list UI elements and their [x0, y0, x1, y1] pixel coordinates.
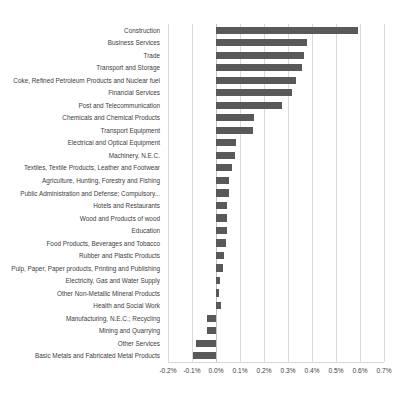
category-label: Other Non-Metallic Mineral Products	[57, 290, 160, 297]
tick-label-0.0%: 0.0%	[208, 366, 223, 375]
bar	[216, 64, 302, 71]
bar	[216, 177, 229, 184]
tick-label-0.7%: 0.7%	[376, 366, 391, 375]
category-label: Financial Services	[108, 89, 160, 96]
bar-row	[168, 62, 384, 75]
bar	[216, 52, 304, 59]
bar	[216, 189, 229, 196]
category-label: Wood and Products of wood	[80, 215, 160, 222]
category-axis-labels: ConstructionBusiness ServicesTradeTransp…	[0, 24, 164, 362]
category-label: Electrical and Optical Equipment	[68, 139, 160, 146]
tick-label-0.5%: 0.5%	[328, 366, 343, 375]
bar	[216, 139, 236, 146]
bar	[216, 27, 358, 34]
bar-row	[168, 337, 384, 350]
bar-row	[168, 187, 384, 200]
bar-row	[168, 274, 384, 287]
bar	[207, 315, 216, 322]
tick-label--0.1%: -0.1%	[183, 366, 200, 375]
bar	[216, 239, 226, 246]
bar	[216, 289, 219, 296]
category-label: Construction	[124, 27, 160, 34]
bar	[216, 302, 221, 309]
category-label: Basic Metals and Fabricated Metal Produc…	[35, 352, 160, 359]
bar-row	[168, 124, 384, 137]
bar-row	[168, 74, 384, 87]
horizontal-bar-chart: ConstructionBusiness ServicesTradeTransp…	[0, 0, 404, 397]
bar	[216, 39, 307, 46]
bar-row	[168, 324, 384, 337]
category-label: Rubber and Plastic Products	[79, 252, 160, 259]
category-label: Coke, Refined Petroleum Products and Nuc…	[13, 77, 160, 84]
bar	[216, 114, 254, 121]
gridline-0.7%	[384, 24, 385, 362]
bar	[216, 227, 227, 234]
category-label: Education	[132, 227, 160, 234]
bar-row	[168, 112, 384, 125]
bar-row	[168, 349, 384, 362]
tick-label-0.4%: 0.4%	[304, 366, 319, 375]
category-label: Mining and Quarrying	[99, 327, 160, 334]
bar	[216, 277, 220, 284]
bar-row	[168, 299, 384, 312]
bar-row	[168, 99, 384, 112]
bar	[207, 327, 216, 334]
x-axis-baseline	[168, 362, 384, 363]
category-label: Pulp, Paper, Paper products, Printing an…	[11, 265, 160, 272]
category-label: Post and Telecommunication	[78, 102, 160, 109]
bar-row	[168, 174, 384, 187]
bar	[193, 352, 216, 359]
bar-row	[168, 37, 384, 50]
category-label: Hotels and Restaurants	[93, 202, 160, 209]
category-label: Chemicals and Chemical Products	[62, 114, 160, 121]
category-label: Machinery, N.E.C.	[109, 152, 160, 159]
category-label: Health and Social Work	[93, 302, 160, 309]
category-label: Agriculture, Hunting, Forestry and Fishi…	[42, 177, 160, 184]
tick-label-0.3%: 0.3%	[280, 366, 295, 375]
bar-row	[168, 162, 384, 175]
bar	[216, 164, 232, 171]
category-label: Other Services	[118, 340, 160, 347]
tick-label--0.2%: -0.2%	[159, 366, 176, 375]
bar-row	[168, 212, 384, 225]
bar	[216, 202, 227, 209]
tick-label-0.2%: 0.2%	[256, 366, 271, 375]
bar	[216, 152, 235, 159]
category-label: Manufacturing, N.E.C.; Recycling	[66, 315, 160, 322]
bar	[216, 214, 227, 221]
bar	[216, 264, 223, 271]
value-axis-tick-labels: -0.2%-0.1%0.0%0.1%0.2%0.3%0.4%0.5%0.6%0.…	[0, 366, 404, 380]
bar	[216, 89, 292, 96]
bar-row	[168, 224, 384, 237]
category-label: Trade	[144, 52, 160, 59]
bar-row	[168, 87, 384, 100]
category-label: Public Administration and Defense; Compu…	[20, 190, 160, 197]
tick-label-0.1%: 0.1%	[232, 366, 247, 375]
bar	[216, 252, 224, 259]
bar-row	[168, 137, 384, 150]
bar-row	[168, 287, 384, 300]
bar-rows	[168, 24, 384, 362]
tick-label-0.6%: 0.6%	[352, 366, 367, 375]
bar	[216, 127, 253, 134]
category-label: Electricity, Gas and Water Supply	[66, 277, 160, 284]
category-label: Transport Equipment	[101, 127, 160, 134]
bar-row	[168, 24, 384, 37]
bar-row	[168, 199, 384, 212]
category-label: Transport and Storage	[96, 64, 160, 71]
category-label: Textiles, Textile Products, Leather and …	[24, 164, 160, 171]
bar-row	[168, 262, 384, 275]
bar	[216, 77, 296, 84]
bar	[196, 340, 216, 347]
bar-row	[168, 149, 384, 162]
bar-row	[168, 49, 384, 62]
plot-area	[168, 24, 384, 362]
bar-row	[168, 249, 384, 262]
bar-row	[168, 312, 384, 325]
category-label: Food Products, Beverages and Tobacco	[46, 240, 160, 247]
category-label: Business Services	[108, 39, 160, 46]
bar	[216, 102, 282, 109]
bar-row	[168, 237, 384, 250]
